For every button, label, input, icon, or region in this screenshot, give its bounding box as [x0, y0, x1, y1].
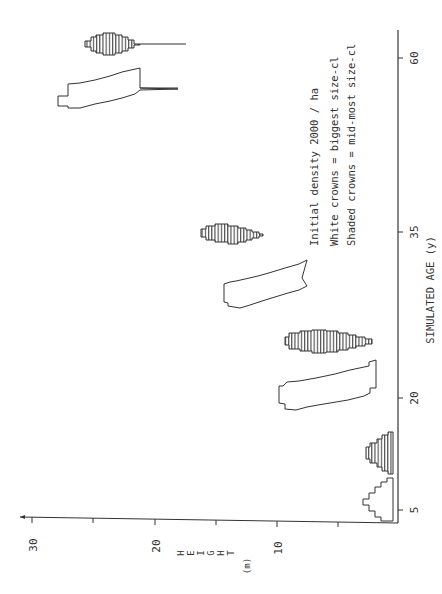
- height-letter: H: [216, 550, 226, 555]
- height-letter: I: [196, 550, 206, 555]
- note-shaded-crowns: Shaded crowns = mid-most size-cl: [345, 44, 357, 246]
- white-crown-age-5: [363, 478, 393, 521]
- white-crown-age-35: [224, 260, 307, 308]
- crown-profile-chart: 30 20 10 5 20 35 60 SIMULATED AGE (y) H …: [0, 0, 442, 594]
- note-density: Initial density 2000 / ha: [308, 88, 320, 246]
- height-tick-20: 20: [150, 539, 163, 552]
- crowns: [58, 33, 393, 521]
- axis-arrow-icon: [20, 515, 25, 519]
- height-letter: E: [186, 550, 196, 555]
- height-tick-30: 30: [27, 538, 40, 551]
- age-tick-5: 5: [408, 507, 421, 514]
- height-axis: [20, 515, 398, 527]
- white-crown-age-20: [279, 360, 376, 410]
- age-tick-35: 35: [408, 225, 421, 238]
- height-unit: (m): [242, 558, 252, 574]
- height-letter: G: [206, 550, 216, 555]
- age-tick-20: 20: [408, 391, 421, 404]
- height-axis-title: H E I G H T (m): [176, 550, 252, 574]
- age-axis: [398, 30, 403, 523]
- height-tick-10: 10: [272, 541, 285, 554]
- height-letter: T: [226, 550, 236, 556]
- age-axis-title: SIMULATED AGE (y): [424, 236, 436, 343]
- shaded-crown-age-39: [201, 224, 263, 244]
- height-letter: H: [176, 550, 186, 555]
- shaded-crown-age-66: [85, 33, 140, 55]
- age-tick-60: 60: [408, 51, 421, 64]
- note-white-crowns: White crowns = biggest size-cl: [328, 56, 340, 246]
- shaded-crown-age-10: [366, 432, 393, 474]
- shaded-crown-age-26: [285, 330, 372, 353]
